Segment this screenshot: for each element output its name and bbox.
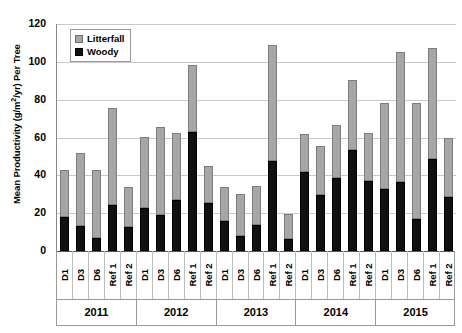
bar-2011-d3 bbox=[76, 153, 85, 251]
bar-segment-litterfall bbox=[60, 170, 69, 217]
category-tick-2014-ref1: Ref 1 bbox=[343, 251, 359, 299]
category-tick-text: D3 bbox=[155, 269, 166, 281]
category-tick-2015-ref1: Ref 1 bbox=[423, 251, 439, 299]
category-tick-text: Ref 1 bbox=[187, 263, 198, 286]
y-tick-label-80: 80 bbox=[0, 93, 46, 105]
legend-swatch-woody-icon bbox=[75, 48, 83, 56]
bar-segment-litterfall bbox=[300, 134, 309, 172]
category-tick-2015-d3: D3 bbox=[391, 251, 407, 299]
bar-2015-d6 bbox=[412, 103, 421, 251]
legend-item-litterfall: Litterfall bbox=[75, 32, 124, 45]
bar-segment-litterfall bbox=[252, 186, 261, 225]
bar-segment-woody bbox=[332, 178, 341, 251]
y-tick-label-0: 0 bbox=[0, 244, 46, 256]
category-tick-text: Ref 2 bbox=[203, 263, 214, 286]
bar-2013-ref2 bbox=[284, 214, 293, 251]
bar-segment-woody bbox=[348, 150, 357, 251]
bar-segment-litterfall bbox=[348, 80, 357, 150]
bar-2015-ref2 bbox=[444, 138, 453, 251]
category-tick-text: Ref 2 bbox=[123, 263, 134, 286]
bar-segment-litterfall bbox=[444, 138, 453, 197]
bar-segment-litterfall bbox=[92, 170, 101, 238]
bar-segment-litterfall bbox=[76, 153, 85, 227]
legend-item-woody: Woody bbox=[75, 45, 124, 58]
legend-label-woody: Woody bbox=[87, 46, 119, 57]
year-label-2011: 2011 bbox=[56, 299, 136, 325]
x-axis-category-row: D1D3D6Ref 1Ref 2D1D3D6Ref 1Ref 2D1D3D6Re… bbox=[56, 251, 455, 300]
legend-swatch-litterfall-icon bbox=[75, 35, 83, 43]
bar-2013-ref1 bbox=[268, 45, 277, 251]
bar-segment-litterfall bbox=[396, 52, 405, 182]
category-tick-2011-d3: D3 bbox=[72, 251, 88, 299]
x-axis-year-row: 20112012201320142015 bbox=[56, 299, 455, 326]
category-tick-text: Ref 1 bbox=[346, 263, 357, 286]
bar-segment-litterfall bbox=[268, 45, 277, 161]
category-tick-text: D3 bbox=[235, 269, 246, 281]
bar-segment-litterfall bbox=[172, 133, 181, 200]
category-tick-text: D6 bbox=[171, 269, 182, 281]
category-tick-text: D1 bbox=[298, 269, 309, 281]
category-tick-2011-ref1: Ref 1 bbox=[104, 251, 120, 299]
bar-2012-ref2 bbox=[204, 166, 213, 251]
bar-2012-ref1 bbox=[188, 65, 197, 251]
bar-segment-woody bbox=[124, 227, 133, 251]
bar-2011-ref2 bbox=[124, 187, 133, 251]
bar-segment-litterfall bbox=[156, 127, 165, 215]
category-tick-2015-d1: D1 bbox=[375, 251, 391, 299]
bar-segment-woody bbox=[380, 189, 389, 251]
bar-2012-d6 bbox=[172, 133, 181, 251]
bar-segment-woody bbox=[92, 238, 101, 251]
bar-segment-woody bbox=[220, 221, 229, 251]
category-tick-2015-d6: D6 bbox=[407, 251, 423, 299]
category-tick-2013-d1: D1 bbox=[216, 251, 232, 299]
bar-2014-d1 bbox=[300, 134, 309, 251]
bar-segment-litterfall bbox=[188, 65, 197, 132]
category-tick-text: D3 bbox=[394, 269, 405, 281]
category-tick-text: D1 bbox=[219, 269, 230, 281]
bar-segment-woody bbox=[268, 161, 277, 251]
bar-2011-ref1 bbox=[108, 108, 117, 251]
category-tick-2012-d6: D6 bbox=[168, 251, 184, 299]
bar-segment-woody bbox=[236, 236, 245, 251]
category-tick-text: D1 bbox=[59, 269, 70, 281]
category-tick-2015-ref2: Ref 2 bbox=[439, 251, 455, 299]
category-tick-text: D6 bbox=[250, 269, 261, 281]
category-tick-text: Ref 1 bbox=[426, 263, 437, 286]
bar-2014-ref2 bbox=[364, 133, 373, 251]
category-tick-text: Ref 2 bbox=[362, 263, 373, 286]
category-tick-2014-d6: D6 bbox=[327, 251, 343, 299]
legend: Litterfall Woody bbox=[70, 29, 131, 62]
bar-segment-woody bbox=[300, 172, 309, 251]
category-tick-2013-d3: D3 bbox=[232, 251, 248, 299]
chart-container: Mean Productivity (g/m2/yr) Per Tree 020… bbox=[0, 0, 462, 333]
category-tick-2013-ref1: Ref 1 bbox=[263, 251, 279, 299]
bar-2012-d3 bbox=[156, 127, 165, 251]
category-tick-text: D6 bbox=[330, 269, 341, 281]
year-label-2015: 2015 bbox=[375, 299, 455, 325]
bar-segment-litterfall bbox=[124, 187, 133, 228]
bar-segment-woody bbox=[284, 239, 293, 251]
category-tick-2012-ref1: Ref 1 bbox=[184, 251, 200, 299]
y-tick-label-40: 40 bbox=[0, 168, 46, 180]
bar-segment-woody bbox=[412, 219, 421, 251]
bar-segment-litterfall bbox=[364, 133, 373, 181]
y-tick-label-100: 100 bbox=[0, 55, 46, 67]
category-tick-text: Ref 2 bbox=[442, 263, 453, 286]
bar-segment-litterfall bbox=[220, 187, 229, 221]
bar-segment-woody bbox=[204, 203, 213, 251]
category-tick-text: D6 bbox=[410, 269, 421, 281]
bar-segment-woody bbox=[316, 195, 325, 251]
legend-label-litterfall: Litterfall bbox=[87, 33, 124, 44]
category-tick-2014-d3: D3 bbox=[311, 251, 327, 299]
bar-segment-woody bbox=[396, 182, 405, 251]
bar-2012-d1 bbox=[140, 137, 149, 251]
category-tick-2011-ref2: Ref 2 bbox=[120, 251, 136, 299]
bar-segment-litterfall bbox=[412, 103, 421, 218]
category-tick-2014-ref2: Ref 2 bbox=[359, 251, 375, 299]
category-tick-text: Ref 2 bbox=[282, 263, 293, 286]
category-tick-2012-d1: D1 bbox=[136, 251, 152, 299]
bar-2013-d6 bbox=[252, 186, 261, 251]
category-tick-text: D1 bbox=[139, 269, 150, 281]
bar-2014-d3 bbox=[316, 146, 325, 251]
y-axis-tick-labels: 020406080100120 bbox=[0, 24, 52, 251]
